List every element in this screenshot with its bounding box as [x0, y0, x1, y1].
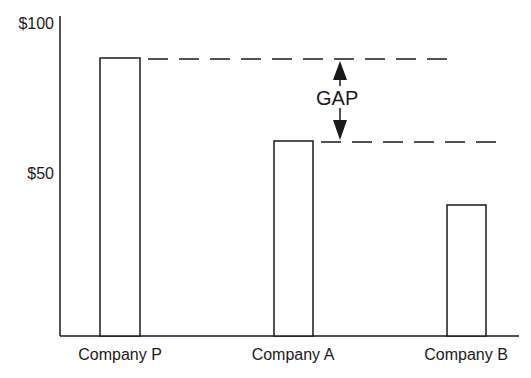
y-tick-50: $50 — [4, 165, 54, 183]
bar-company-p — [100, 58, 140, 336]
chart-canvas — [0, 0, 531, 378]
x-label-company-p: Company P — [60, 346, 180, 364]
y-tick-100: $100 — [4, 15, 54, 33]
bar-company-b — [447, 205, 486, 336]
x-label-company-a: Company A — [233, 346, 353, 364]
x-label-company-b: Company B — [406, 346, 526, 364]
bar-company-a — [274, 141, 313, 336]
gap-label: GAP — [316, 87, 358, 110]
